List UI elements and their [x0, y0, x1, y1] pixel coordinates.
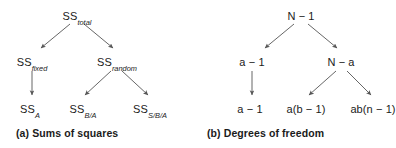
arrow-random-to-s-b-a	[122, 71, 148, 95]
node-n-minus-1: N − 1	[287, 10, 314, 22]
panel-sums-of-squares: SStotal SSfixed SSrandom SSA SSB/A SSS/B…	[0, 0, 190, 148]
node-a-minus-1: a − 1	[239, 56, 264, 68]
node-leaf-ab-n-minus-1: ab(n − 1)	[350, 103, 395, 115]
node-n-minus-a: N − a	[327, 56, 354, 68]
node-ss-fixed-sub: fixed	[32, 64, 48, 73]
node-ss-b-a-main: SS	[70, 103, 85, 115]
node-ss-a-main: SS	[20, 103, 35, 115]
caption-panel-a: (a) Sums of squares	[16, 127, 118, 139]
arrow-total-to-random	[84, 24, 113, 48]
node-ss-a-sub: A	[35, 111, 40, 120]
node-ss-total-sub: total	[77, 18, 91, 27]
node-ss-random: SSrandom	[97, 56, 137, 68]
node-ss-s-b-a-main: SS	[133, 103, 148, 115]
node-ss-s-b-a-sub: S/B/A	[148, 111, 167, 120]
node-ss-total-main: SS	[63, 10, 78, 22]
node-ss-s-b-a: SSS/B/A	[133, 103, 167, 115]
node-ss-random-sub: random	[112, 64, 137, 73]
arrow-total-to-fixed	[41, 24, 70, 48]
panel-b-arrows	[191, 0, 381, 148]
panel-a-arrows	[0, 0, 190, 148]
node-leaf-a-minus-1: a − 1	[237, 103, 262, 115]
node-leaf-a-b-minus-1: a(b − 1)	[286, 103, 325, 115]
caption-panel-b: (b) Degrees of freedom	[207, 127, 324, 139]
panel-degrees-of-freedom: N − 1 a − 1 N − a a − 1 a(b − 1) ab(n − …	[191, 0, 381, 148]
node-ss-fixed: SSfixed	[17, 56, 48, 68]
node-ss-random-main: SS	[97, 56, 112, 68]
arrow-n1-to-na	[308, 24, 337, 48]
arrow-n1-to-a1	[265, 24, 294, 48]
node-ss-b-a: SSB/A	[70, 103, 97, 115]
arrow-na-to-ab1	[309, 71, 336, 95]
node-ss-a: SSA	[20, 103, 40, 115]
node-ss-fixed-main: SS	[17, 56, 32, 68]
arrow-random-to-b-a	[85, 71, 111, 95]
node-ss-total: SStotal	[63, 10, 92, 22]
arrow-na-to-abn1	[347, 71, 371, 95]
node-ss-b-a-sub: B/A	[84, 111, 96, 120]
